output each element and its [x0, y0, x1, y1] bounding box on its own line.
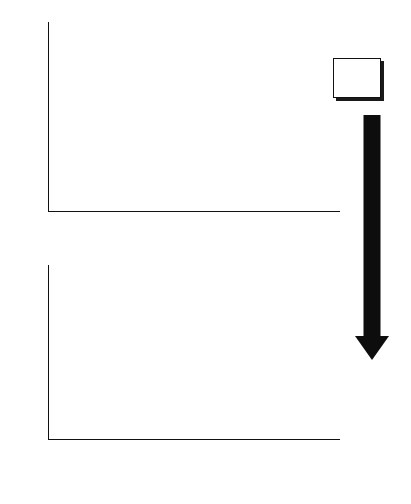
bottom-bar-chart	[48, 265, 340, 440]
chart-legend	[333, 58, 381, 98]
predicted-shift-annotation	[353, 115, 391, 360]
top-bar-chart	[48, 22, 340, 212]
arrow-shaft	[364, 115, 381, 336]
arrow-head-icon	[355, 336, 389, 360]
